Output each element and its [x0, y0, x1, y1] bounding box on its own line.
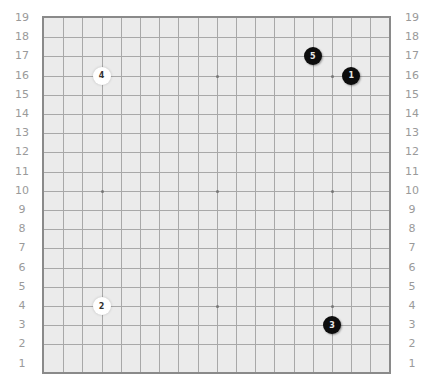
grid-line-horizontal — [44, 287, 389, 288]
row-label: 2 — [10, 338, 34, 350]
row-label: 12 — [400, 146, 424, 158]
star-point — [331, 190, 334, 193]
row-label: 6 — [400, 262, 424, 274]
row-label: 3 — [400, 319, 424, 331]
star-point — [216, 75, 219, 78]
star-point — [216, 305, 219, 308]
row-label: 18 — [400, 31, 424, 43]
move-number: 2 — [99, 302, 105, 311]
grid-line-vertical — [370, 18, 371, 372]
white-stone[interactable]: 2 — [93, 297, 111, 315]
row-label: 11 — [10, 166, 34, 178]
grid-line-vertical — [63, 18, 64, 372]
row-label: 15 — [10, 89, 34, 101]
star-point — [216, 190, 219, 193]
row-label: 1 — [10, 358, 34, 370]
grid-line-horizontal — [44, 210, 389, 211]
grid-line-horizontal — [44, 248, 389, 249]
row-label: 1 — [400, 358, 424, 370]
row-label: 17 — [10, 50, 34, 62]
row-label: 10 — [400, 185, 424, 197]
grid-line-vertical — [294, 18, 295, 372]
move-number: 3 — [329, 321, 335, 330]
row-label: 11 — [400, 166, 424, 178]
row-label: 9 — [400, 204, 424, 216]
black-stone[interactable]: 1 — [342, 67, 360, 85]
row-label: 12 — [10, 146, 34, 158]
row-label: 15 — [400, 89, 424, 101]
grid-line-horizontal — [44, 344, 389, 345]
grid-line-vertical — [255, 18, 256, 372]
row-label: 7 — [400, 242, 424, 254]
white-stone[interactable]: 4 — [93, 67, 111, 85]
grid-line-vertical — [140, 18, 141, 372]
row-label: 13 — [10, 127, 34, 139]
row-label: 4 — [10, 300, 34, 312]
grid-line-vertical — [82, 18, 83, 372]
grid-line-vertical — [178, 18, 179, 372]
row-label: 6 — [10, 262, 34, 274]
row-label: 9 — [10, 204, 34, 216]
move-number: 4 — [99, 71, 105, 80]
grid-line-horizontal — [44, 229, 389, 230]
row-label: 8 — [400, 223, 424, 235]
row-label: 10 — [10, 185, 34, 197]
row-label: 16 — [400, 70, 424, 82]
star-point — [331, 305, 334, 308]
grid-line-vertical — [313, 18, 314, 372]
row-label: 8 — [10, 223, 34, 235]
move-number: 5 — [310, 52, 316, 61]
row-label: 5 — [10, 281, 34, 293]
row-label: 14 — [10, 108, 34, 120]
row-label: 16 — [10, 70, 34, 82]
row-label: 7 — [10, 242, 34, 254]
row-label: 2 — [400, 338, 424, 350]
row-label: 3 — [10, 319, 34, 331]
row-label: 4 — [400, 300, 424, 312]
row-label: 5 — [400, 281, 424, 293]
go-board-view: 19181716151413121110987654321 1918171615… — [0, 0, 432, 392]
star-point — [331, 75, 334, 78]
row-label: 17 — [400, 50, 424, 62]
grid-line-vertical — [274, 18, 275, 372]
row-label: 19 — [10, 12, 34, 24]
row-label: 18 — [10, 31, 34, 43]
grid-line-vertical — [236, 18, 237, 372]
grid-line-vertical — [198, 18, 199, 372]
grid-line-vertical — [159, 18, 160, 372]
row-label: 13 — [400, 127, 424, 139]
row-label: 14 — [400, 108, 424, 120]
grid-line-vertical — [217, 18, 218, 372]
move-number: 1 — [348, 71, 354, 80]
grid-line-vertical — [121, 18, 122, 372]
grid-line-horizontal — [44, 268, 389, 269]
row-label: 19 — [400, 12, 424, 24]
star-point — [101, 190, 104, 193]
